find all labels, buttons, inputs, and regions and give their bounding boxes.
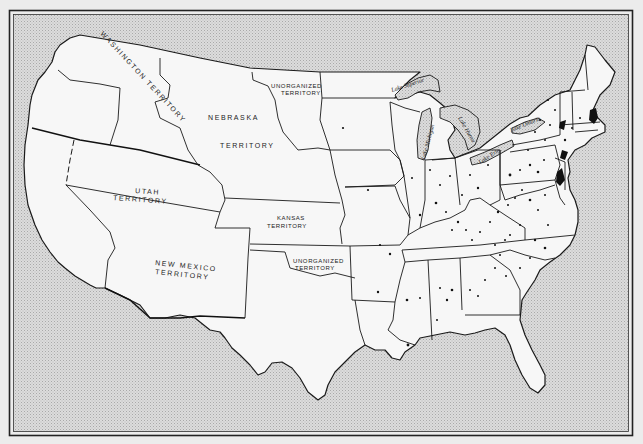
label-unorganized-territory-north-line1: UNORGANIZED (271, 83, 322, 89)
label-nebraska-territory-line1: NEBRASKA (208, 114, 259, 121)
label-unorganized-territory-south-line1: UNORGANIZED (293, 258, 344, 264)
label-kansas-territory-line1: KANSAS (277, 215, 305, 221)
label-unorganized-territory-south-line2: TERRITORY (295, 265, 335, 271)
label-nebraska-territory-line2: TERRITORY (220, 142, 275, 149)
label-unorganized-territory-north-line2: TERRITORY (281, 90, 321, 96)
historical-us-territories-map: WASHINGTON TERRITORY NEBRASKA TERRITORY … (0, 0, 643, 444)
label-kansas-territory-line2: TERRITORY (267, 223, 307, 229)
